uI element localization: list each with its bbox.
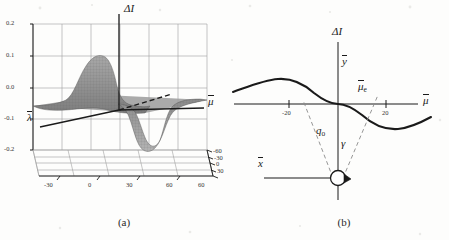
panel-a-xtick-2: 30 xyxy=(126,182,133,189)
mu-overbar xyxy=(208,95,214,96)
panel-a-mu-glyph: μ xyxy=(208,95,214,107)
panel-b-xtick-20: 20 xyxy=(382,110,389,117)
panel-b-mu-e-subscript: e xyxy=(364,85,367,94)
panel-a-caption: (a) xyxy=(104,216,144,228)
mu-axis-overbar xyxy=(423,94,429,95)
panel-b-y-label: y xyxy=(342,56,347,67)
y-overbar xyxy=(342,55,347,56)
panel-b-x-glyph: x xyxy=(258,157,263,169)
panel-b-y-glyph: y xyxy=(342,55,347,67)
panel-a-ztick-2: 0.0 xyxy=(6,84,14,91)
panel-a-ytick-4: 60 xyxy=(198,182,205,189)
panel-a-delta-i-label: ΔI xyxy=(124,3,134,14)
panel-a-3d-surface-plot: 0.2 0.1 0.0 -0.1 -0.2 -30 0 30 60 -60 -3… xyxy=(0,0,228,240)
panel-b-mu-e-glyph: μ xyxy=(358,80,364,92)
panel-a-ztick-4: -0.2 xyxy=(4,146,14,153)
panel-a-xtick-0: -30 xyxy=(44,182,53,189)
panel-b-source-circle xyxy=(331,171,346,186)
panel-b-mu-glyph: μ xyxy=(423,94,429,106)
panel-a-ztick-1: 0.1 xyxy=(6,52,14,59)
panel-b-schematic-diagram: ΔI y μ -20 20 μe qo γ x (b) xyxy=(228,0,449,240)
panel-b-direction-arrow-icon xyxy=(344,174,351,183)
panel-b-mu-label: μ xyxy=(423,95,429,106)
panel-b-q-subscript: o xyxy=(322,129,326,138)
panel-b-ray-left-dashed xyxy=(303,100,333,178)
lambda-overbar xyxy=(27,111,32,112)
figure-root: 0.2 0.1 0.0 -0.1 -0.2 -30 0 30 60 -60 -3… xyxy=(0,0,449,240)
x-overbar xyxy=(258,157,263,158)
panel-a-ztick-0: 0.2 xyxy=(6,20,14,27)
panel-a-lambda-axis xyxy=(40,110,119,127)
panel-b-mu-e-label: μe xyxy=(358,81,367,93)
panel-a-vertical-axis xyxy=(30,24,33,150)
panel-a-xtick-3: 60 xyxy=(166,182,173,189)
panel-a-lambda-label: λ xyxy=(27,112,32,123)
panel-b-q-o-label: qo xyxy=(316,125,325,137)
panel-a-ztick-3: -0.1 xyxy=(4,115,14,122)
panel-b-caption: (b) xyxy=(324,216,364,228)
panel-b-delta-i-label: ΔI xyxy=(332,26,342,37)
panel-b-x-label: x xyxy=(258,158,263,169)
panel-a-ytick-3: 30 xyxy=(217,168,224,175)
panel-a-lambda-glyph: λ xyxy=(27,111,32,123)
panel-b-gamma-label: γ xyxy=(341,138,345,149)
mu-e-overbar xyxy=(358,80,364,81)
panel-a-xtick-1: 0 xyxy=(88,182,91,189)
panel-a-mu-label: μ xyxy=(208,96,214,107)
panel-a-back-wall-grid xyxy=(33,24,207,150)
panel-a-graphics xyxy=(0,0,228,240)
panel-a-front-axis xyxy=(39,176,213,180)
panel-b-xtick-neg20: -20 xyxy=(282,110,291,117)
panel-a-floor-grid xyxy=(33,150,213,176)
